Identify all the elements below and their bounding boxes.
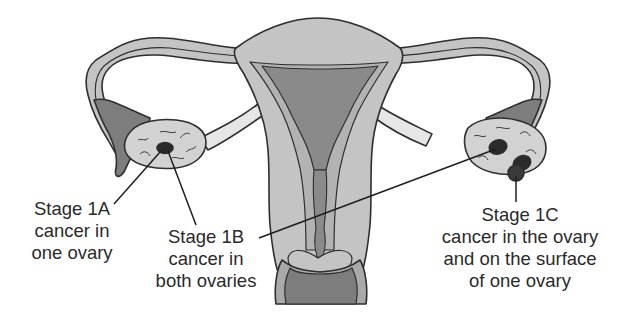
stage-1b-label: Stage 1B cancer in both ovaries	[146, 226, 266, 292]
stage-1a-line2: cancer in	[16, 220, 128, 242]
stage-1b-line2: cancer in	[146, 248, 266, 270]
stage-1c-label: Stage 1C cancer in the ovary and on the …	[430, 204, 610, 292]
stage-1b-line3: both ovaries	[146, 270, 266, 292]
stage-1a-title: Stage 1A	[16, 198, 128, 220]
left-ovarian-ligament	[200, 104, 262, 150]
stage-1b-title: Stage 1B	[146, 226, 266, 248]
stage-1a-line3: one ovary	[16, 242, 128, 264]
vaginal-canal	[285, 268, 357, 304]
stage-1c-line2: cancer in the ovary	[430, 226, 610, 248]
stage-1c-title: Stage 1C	[430, 204, 610, 226]
right-ovarian-ligament	[372, 104, 432, 146]
stage-1c-line3: and on the surface	[430, 248, 610, 270]
stage-1a-label: Stage 1A cancer in one ovary	[16, 198, 128, 264]
stage-1c-line4: of one ovary	[430, 270, 610, 292]
